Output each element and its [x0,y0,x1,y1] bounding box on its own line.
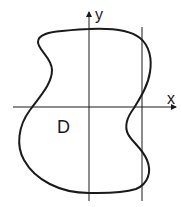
region-diagram: x y D [0,0,181,207]
region-boundary [19,29,150,193]
x-axis-label: x [167,90,175,107]
region-label: D [57,117,70,137]
y-axis-label: y [95,6,103,23]
